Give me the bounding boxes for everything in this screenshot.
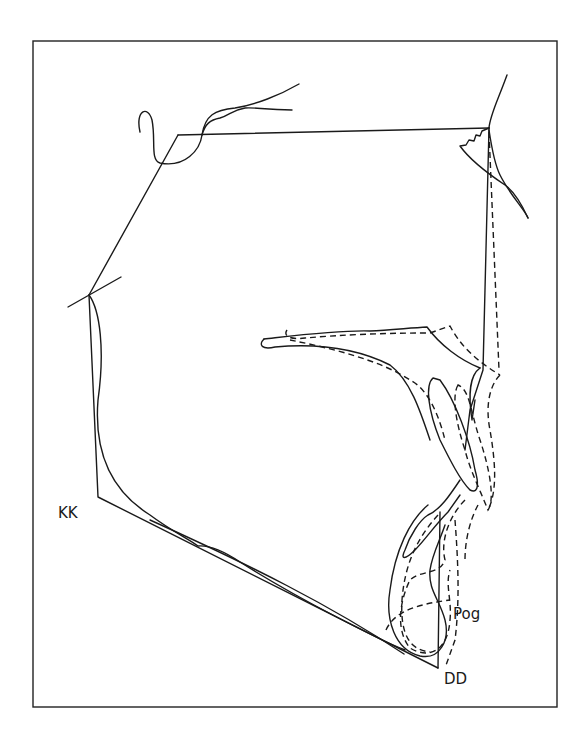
label-dd: DD — [444, 672, 467, 687]
label-kk: KK — [58, 506, 78, 521]
ramus-outline — [89, 295, 405, 650]
maxilla-solid — [261, 327, 480, 440]
upper-lip-dashed — [488, 375, 500, 510]
symphysis-solid — [389, 480, 460, 657]
basion-marker — [68, 277, 121, 307]
nasion-region — [460, 75, 528, 370]
label-pog: Pog — [453, 607, 480, 622]
sella-turcica — [139, 84, 299, 164]
cephalometric-diagram — [0, 0, 585, 744]
